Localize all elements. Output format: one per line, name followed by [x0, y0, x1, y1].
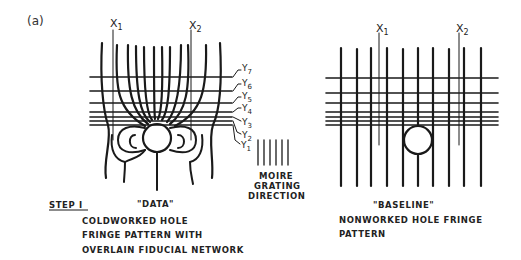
step-label: STEP I — [49, 200, 83, 210]
y-label-leaders — [233, 70, 241, 144]
right-hole — [404, 126, 432, 154]
moire-caption-line-1: MOIRE — [259, 171, 293, 181]
y1-label: Y1 — [241, 140, 251, 153]
grating-lines — [258, 140, 288, 165]
left-x2-label: X2 — [189, 19, 202, 34]
y6-label: Y6 — [242, 78, 252, 91]
y5-label: Y5 — [242, 91, 252, 104]
right-caption-line-2: PATTERN — [339, 229, 386, 239]
right-y-lines — [326, 78, 498, 125]
right-x2-label: X2 — [456, 22, 469, 37]
y7-label: Y7 — [242, 63, 252, 76]
y4-label: Y4 — [242, 103, 252, 116]
moire-caption-line-2: GRATING — [254, 181, 301, 191]
left-hole — [143, 124, 171, 152]
left-fringe-pattern — [101, 43, 220, 178]
right-caption-line-1: NONWORKED HOLE FRINGE — [339, 215, 483, 225]
left-x1-label: X1 — [110, 17, 123, 32]
left-caption-line-1: COLDWORKED HOLE — [82, 216, 188, 226]
y3-label: Y3 — [242, 117, 252, 130]
baseline-label: "BASELINE" — [373, 200, 434, 210]
moire-caption-line-3: DIRECTION — [248, 191, 306, 201]
data-label: "DATA" — [137, 199, 174, 209]
right-x1-label: X1 — [376, 22, 389, 37]
left-caption-line-2: FRINGE PATTERN WITH — [82, 230, 203, 240]
left-caption-line-3: OVERLAIN FIDUCIAL NETWORK — [82, 245, 244, 255]
